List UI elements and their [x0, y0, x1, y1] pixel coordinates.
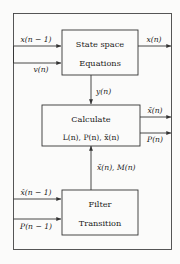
signal-label-v: v(n)	[33, 65, 48, 74]
filter-transition-label-line2: Transition	[79, 218, 122, 228]
block-filter-transition	[62, 190, 138, 235]
calculate-label-line1: Calculate	[71, 114, 110, 124]
signal-label-x-tilde-out: x̃(n)	[147, 106, 162, 115]
connector-left-rail-top	[14, 46, 31, 63]
filter-transition-label-line1: Filter	[89, 199, 112, 209]
block-diagram-svg: State space Equations Calculate L(n), P(…	[0, 0, 180, 264]
state-space-label-line1: State space	[76, 39, 124, 49]
diagram-canvas: State space Equations Calculate L(n), P(…	[0, 0, 180, 264]
state-space-label-line2: Equations	[79, 58, 121, 68]
signal-label-feedback-up: x̃(n), M(n)	[97, 163, 136, 172]
calculate-label-line2: L(n), P(n), x̃(n)	[63, 133, 120, 142]
signal-label-x-prev: x(n − 1)	[20, 35, 51, 44]
signal-label-p-prev: P(n − 1)	[19, 222, 52, 231]
signal-label-y: y(n)	[95, 87, 111, 96]
block-state-space	[62, 30, 138, 75]
signal-label-x-out: x(n)	[146, 35, 161, 44]
signal-label-p-out: P(n)	[146, 135, 163, 144]
signal-label-x-hat-prev: x̂(n − 1)	[20, 188, 51, 197]
